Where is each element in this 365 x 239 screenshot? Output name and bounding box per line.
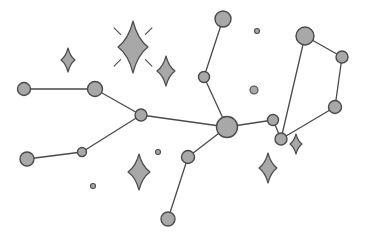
star-node-north-tip: [215, 11, 231, 27]
star-node-polygon-bottom-right: [329, 101, 342, 114]
star-node-west-upper-right: [88, 82, 103, 97]
star-node-north-mid: [199, 72, 210, 83]
star-node-west-upper-left: [18, 83, 31, 96]
dot-tiny-midleft: [156, 150, 161, 155]
star-node-polygon-right: [336, 51, 348, 63]
dot-tiny-north: [255, 29, 260, 34]
star-node-polygon-bottom-left: [275, 133, 287, 145]
star-node-west-junction: [135, 109, 147, 121]
dot-tiny-southwest: [91, 184, 96, 189]
dot-small-center: [250, 86, 258, 94]
star-node-hub: [217, 117, 238, 138]
star-node-southwest-outer: [20, 152, 34, 166]
star-node-southwest-mid: [78, 148, 87, 157]
star-node-east-link: [268, 115, 279, 126]
star-node-south-tip: [161, 212, 175, 226]
constellation-diagram: [0, 0, 365, 239]
star-node-south-mid: [182, 151, 195, 164]
star-node-polygon-top: [296, 27, 314, 45]
